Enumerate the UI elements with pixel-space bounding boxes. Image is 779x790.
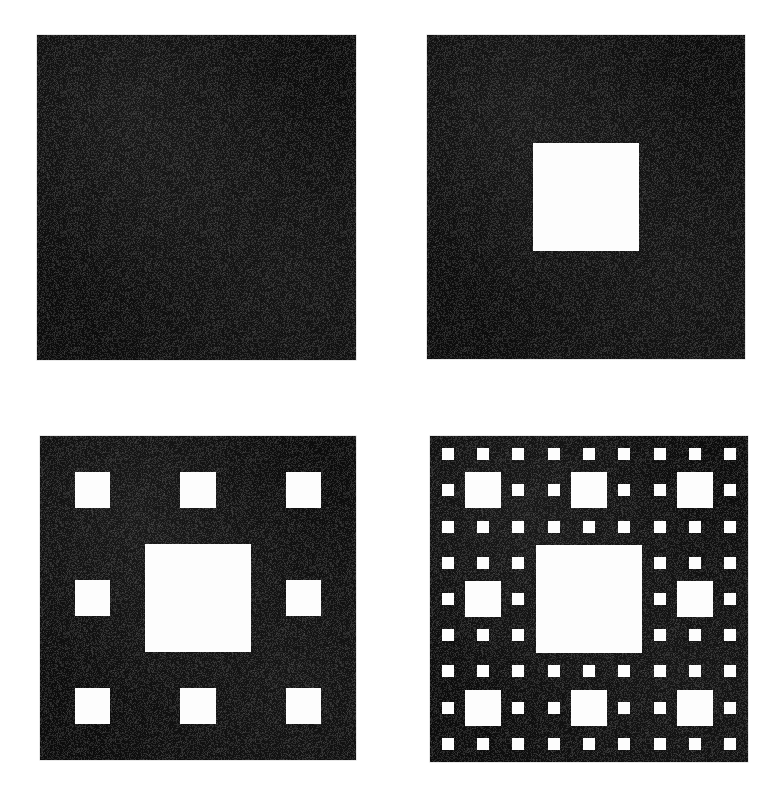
carpet-hole: [724, 665, 736, 677]
carpet-hole: [180, 472, 215, 508]
carpet-hole: [654, 557, 666, 569]
carpet-hole: [442, 593, 454, 605]
carpet-hole: [654, 738, 666, 750]
carpet-hole: [654, 629, 666, 641]
carpet-hole: [75, 472, 110, 508]
carpet-hole: [724, 702, 736, 714]
carpet-hole: [477, 557, 489, 569]
carpet-hole: [618, 665, 630, 677]
carpet-hole: [724, 629, 736, 641]
carpet-hole: [477, 629, 489, 641]
carpet-hole: [724, 557, 736, 569]
carpet-hole: [442, 665, 454, 677]
carpet-hole: [618, 521, 630, 533]
carpet-hole: [724, 593, 736, 605]
carpet-hole: [286, 472, 321, 508]
carpet-hole: [618, 484, 630, 496]
sierpinski-carpet-figure: Sierpinski Carpet Iterations Iteration 0…: [0, 0, 779, 790]
carpet-hole: [583, 665, 595, 677]
carpet-hole: [724, 448, 736, 460]
carpet-hole: [512, 665, 524, 677]
carpet-hole: [442, 448, 454, 460]
carpet-hole: [442, 521, 454, 533]
carpet-hole: [548, 738, 560, 750]
carpet-hole: [724, 738, 736, 750]
carpet-hole: [689, 665, 701, 677]
carpet-hole: [724, 484, 736, 496]
carpet-panel-iteration-3: Iteration 3: [430, 436, 748, 762]
carpet-hole: [571, 472, 606, 508]
carpet-hole: [677, 472, 712, 508]
carpet-hole: [724, 521, 736, 533]
carpet-holes-layer-1: [427, 35, 745, 359]
carpet-hole: [548, 702, 560, 714]
carpet-hole: [442, 557, 454, 569]
carpet-hole: [286, 580, 321, 616]
carpet-hole: [442, 629, 454, 641]
carpet-panel-iteration-2: Iteration 2: [40, 436, 356, 760]
carpet-hole: [477, 521, 489, 533]
carpet-hole: [654, 702, 666, 714]
carpet-hole: [512, 521, 524, 533]
carpet-panel-iteration-1: Iteration 1: [427, 35, 745, 359]
carpet-hole: [512, 484, 524, 496]
carpet-hole: [548, 448, 560, 460]
carpet-hole: [512, 629, 524, 641]
carpet-hole: [618, 702, 630, 714]
carpet-hole: [654, 665, 666, 677]
carpet-hole: [618, 738, 630, 750]
carpet-hole: [654, 593, 666, 605]
carpet-hole: [477, 448, 489, 460]
carpet-holes-layer-2: [40, 436, 356, 760]
carpet-hole: [477, 738, 489, 750]
carpet-hole: [442, 738, 454, 750]
carpet-hole: [654, 448, 666, 460]
carpet-hole: [512, 738, 524, 750]
carpet-hole: [677, 690, 712, 726]
carpet-hole: [180, 688, 215, 724]
carpet-hole: [689, 448, 701, 460]
carpet-hole: [548, 665, 560, 677]
carpet-hole: [689, 738, 701, 750]
carpet-hole: [654, 484, 666, 496]
carpet-hole: [512, 557, 524, 569]
carpet-hole: [512, 448, 524, 460]
carpet-panel-iteration-0: Iteration 0: [37, 35, 356, 360]
carpet-hole: [583, 738, 595, 750]
carpet-hole: [465, 690, 500, 726]
carpet-hole: [548, 484, 560, 496]
carpet-hole: [145, 544, 250, 652]
carpet-hole: [442, 702, 454, 714]
carpet-holes-layer-3: [430, 436, 748, 762]
carpet-hole: [75, 688, 110, 724]
carpet-hole: [583, 448, 595, 460]
carpet-hole: [536, 545, 642, 654]
carpet-hole: [512, 702, 524, 714]
carpet-hole: [677, 581, 712, 617]
carpet-hole: [689, 629, 701, 641]
carpet-hole: [654, 521, 666, 533]
carpet-hole: [477, 665, 489, 677]
carpet-hole: [571, 690, 606, 726]
carpet-holes-layer-0: [37, 35, 356, 360]
carpet-hole: [286, 688, 321, 724]
carpet-hole: [442, 484, 454, 496]
carpet-hole: [548, 521, 560, 533]
carpet-hole: [75, 580, 110, 616]
carpet-hole: [512, 593, 524, 605]
carpet-hole: [533, 143, 639, 251]
carpet-hole: [618, 448, 630, 460]
carpet-hole: [689, 521, 701, 533]
carpet-hole: [689, 557, 701, 569]
carpet-hole: [465, 472, 500, 508]
carpet-hole: [465, 581, 500, 617]
carpet-hole: [583, 521, 595, 533]
